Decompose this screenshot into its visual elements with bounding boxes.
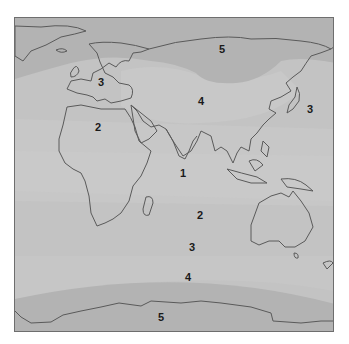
zone-label: 3: [189, 242, 195, 253]
world-map: 5 3 4 3 2 1 2 3 4 5: [14, 17, 334, 332]
map-zones: [15, 18, 334, 332]
zone-label: 1: [180, 168, 186, 179]
zone-label: 3: [307, 104, 313, 115]
zone-label: 5: [219, 44, 225, 55]
zone-label: 4: [198, 96, 204, 107]
zone-label: 5: [158, 312, 164, 323]
zone-label: 2: [197, 210, 203, 221]
zone-label: 2: [95, 122, 101, 133]
zone-label: 3: [98, 77, 104, 88]
zone-label: 4: [185, 272, 191, 283]
